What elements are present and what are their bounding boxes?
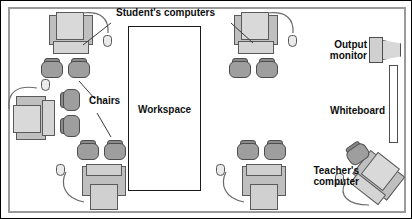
chairs-label: Chairs [89,95,120,106]
students-computers-label: Student's computers [116,7,215,18]
leader-chairs-down [97,113,111,137]
output-monitor-label: Output monitor [319,39,367,61]
classroom-floorplan-diagram: Workspace [0,0,412,219]
teachers-computer-label: Teacher's computer [291,165,359,187]
whiteboard-label: Whiteboard [319,105,385,116]
leader-students-right [231,23,253,43]
leader-students-left [83,23,111,45]
